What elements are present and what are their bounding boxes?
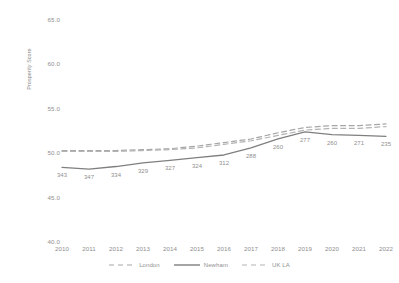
y-axis-tick-65-0: 65.0 [30,16,60,23]
y-axis-title: Prosperity Score [26,34,32,104]
plot-area [62,20,386,242]
y-axis-tick-60-0: 60.0 [30,60,60,67]
legend-label-newham: Newham [204,262,228,268]
data-label-2014: 327 [157,165,183,171]
data-label-2019: 277 [292,137,318,143]
y-axis-tick-50-0: 50.0 [30,149,60,156]
legend-key-dashed-icon [242,262,268,268]
data-label-2017: 288 [238,153,264,159]
data-label-2013: 329 [130,168,156,174]
data-label-2016: 312 [211,160,237,166]
x-axis-tick-2022: 2022 [369,245,399,252]
data-label-2020: 260 [319,140,345,146]
legend-key-solid-icon [174,262,200,268]
prosperity-score-line-chart: Prosperity Score 40.045.050.055.060.065.… [0,0,399,283]
y-axis-tick-55-0: 55.0 [30,105,60,112]
data-label-2015: 324 [184,163,210,169]
series-lines [62,20,386,242]
y-axis-tick-40-0: 40.0 [30,238,60,245]
y-axis-tick-45-0: 45.0 [30,194,60,201]
legend-label-london: London [139,262,160,268]
legend-key-dashed-icon [109,262,135,268]
data-label-2010: 343 [49,172,75,178]
data-label-2018: 260 [265,144,291,150]
data-label-2012: 334 [103,172,129,178]
legend-item-london[interactable]: London [109,262,160,268]
legend-item-uk-la[interactable]: UK LA [242,262,290,268]
data-label-2022: 235 [373,141,399,147]
chart-legend: London Newham UK LA [0,262,399,268]
legend-label-uk-la: UK LA [272,262,290,268]
data-label-2011: 347 [76,174,102,180]
legend-item-newham[interactable]: Newham [174,262,228,268]
data-label-2021: 271 [346,140,372,146]
